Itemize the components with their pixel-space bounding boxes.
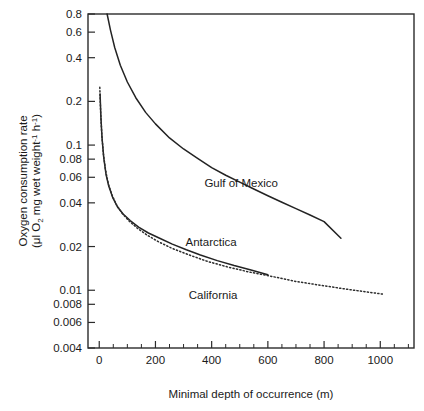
y-tick-label: 0.6: [66, 26, 82, 38]
y-tick-label: 0.8: [66, 8, 82, 20]
x-tick-label: 200: [146, 354, 165, 366]
series-label-california: California: [189, 289, 238, 301]
y-tick-label: 0.08: [60, 153, 82, 165]
y-tick-label: 0.02: [60, 241, 82, 253]
y-axis-title-line2: (μl O2 mg wet weight-1 h-1): [30, 114, 45, 248]
y-tick-label: 0.1: [66, 139, 82, 151]
y-tick-label: 0.04: [60, 197, 83, 209]
curve-gulf-of-mexico: [107, 14, 341, 238]
y-axis-title: Oxygen consumption rate (μl O2 mg wet we…: [17, 114, 45, 248]
x-axis-title: Minimal depth of occurrence (m): [169, 388, 334, 400]
series-label-antarctica: Antarctica: [186, 236, 238, 248]
y-axis-title-line1: Oxygen consumption rate: [17, 115, 29, 246]
y-tick-label: 0.2: [66, 95, 82, 107]
y-axis-ticks: [88, 14, 95, 348]
data-series-group: [100, 14, 383, 294]
chart-canvas: 02004006008001000 0.0040.0060.0080.010.0…: [0, 0, 424, 411]
x-axis-ticks: [99, 341, 408, 348]
x-tick-label: 1000: [367, 354, 393, 366]
y-axis-tick-labels: 0.0040.0060.0080.010.020.040.060.080.10.…: [53, 8, 82, 354]
x-tick-label: 0: [96, 354, 102, 366]
x-tick-label: 400: [202, 354, 221, 366]
series-annotations: Gulf of MexicoAntarcticaCalifornia: [186, 177, 278, 302]
y-tick-label: 0.004: [53, 342, 82, 354]
y-tick-label: 0.01: [60, 284, 82, 296]
x-tick-label: 600: [258, 354, 277, 366]
series-label-gulf-of-mexico: Gulf of Mexico: [204, 177, 278, 189]
x-tick-label: 800: [314, 354, 333, 366]
curve-california: [100, 87, 383, 294]
x-axis-tick-labels: 02004006008001000: [96, 354, 393, 366]
y-tick-label: 0.4: [66, 52, 83, 64]
oxygen-consumption-chart: 02004006008001000 0.0040.0060.0080.010.0…: [0, 0, 424, 411]
y-tick-label: 0.008: [53, 298, 82, 310]
y-tick-label: 0.06: [60, 171, 82, 183]
y-tick-label: 0.006: [53, 316, 82, 328]
